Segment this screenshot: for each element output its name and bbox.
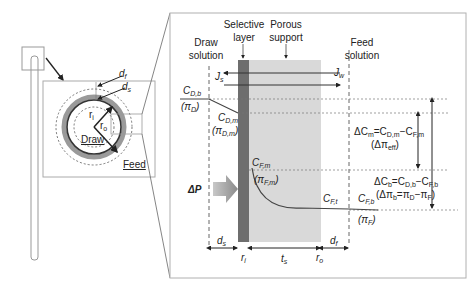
membrane-diagram: df ds ri ro Draw Feed — [0, 0, 472, 295]
label-feed-solution-1: Feed — [351, 37, 374, 48]
label-deltaP: ΔP — [187, 184, 202, 195]
zoom-fan-top — [142, 13, 170, 114]
selective-layer — [238, 60, 249, 242]
label-selective-layer-1: Selective — [224, 19, 265, 30]
zoom-fan-bottom — [142, 134, 170, 278]
label-porous-support-1: Porous — [270, 19, 302, 30]
label-deltaPib: (Δπb=πD−πF) — [376, 189, 435, 201]
label-piF: (πF) — [358, 214, 376, 226]
label-draw-solution-1: Draw — [194, 37, 218, 48]
label-df: df — [119, 68, 128, 80]
label-deltaPiEff: (Δπeff) — [371, 139, 399, 151]
label-draw-solution-2: solution — [189, 50, 223, 61]
overview-panel: df ds ri ro Draw Feed — [22, 13, 170, 278]
label-feed-solution-2: solution — [345, 50, 379, 61]
label-feed: Feed — [123, 159, 146, 170]
detail-panel: Draw solution Selective layer Porous sup… — [170, 13, 466, 278]
label-draw: Draw — [81, 134, 105, 145]
label-porous-support-2: support — [269, 32, 303, 43]
label-selective-layer-2: layer — [233, 32, 255, 43]
porous-support-layer — [249, 60, 321, 242]
callout-arrow — [46, 58, 63, 80]
hollow-fiber-tube — [31, 56, 38, 260]
label-piD: (πD) — [181, 101, 199, 113]
